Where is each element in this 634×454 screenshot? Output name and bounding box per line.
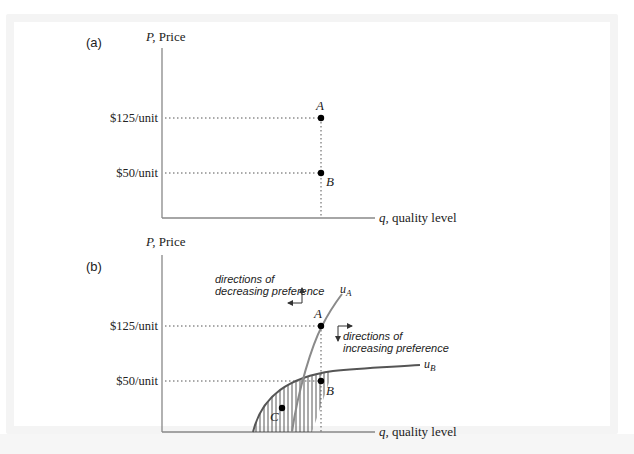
figure-canvas: (a) P, Price q, quality level $125/unit … [0, 0, 634, 454]
panel-a-label-B: B [326, 174, 334, 189]
panel-b-tick-50: $50/unit [116, 374, 158, 388]
panel-a-point-B [318, 170, 324, 176]
panel-a: (a) P, Price q, quality level $125/unit … [86, 29, 457, 225]
panel-b-x-axis-label: q, quality level [379, 424, 457, 439]
panel-a-point-A [318, 115, 324, 121]
curve-uA-label: uA [340, 282, 352, 298]
panel-b-point-C [279, 405, 285, 411]
panel-a-tick-50: $50/unit [116, 166, 158, 180]
panel-a-x-axis-label: q, quality level [379, 210, 457, 225]
panel-b-label-B: B [326, 383, 334, 398]
panel-b: (b) P, Price q, quality level $125/unit … [86, 234, 457, 439]
panel-b-point-B [318, 378, 324, 384]
panel-b-label-A: A [313, 306, 322, 321]
decreasing-preference-line1: directions of [215, 273, 275, 285]
panel-a-y-axis-label: P, Price [145, 29, 186, 44]
increasing-preference-line2: increasing preference [343, 342, 449, 354]
panel-b-point-A [318, 323, 324, 329]
increasing-preference-line1: directions of [343, 330, 403, 342]
panel-b-y-axis-label: P, Price [145, 234, 186, 249]
panel-a-tick-125: $125/unit [110, 111, 158, 125]
panel-b-tick-125: $125/unit [110, 319, 158, 333]
region-C-hatching [256, 360, 328, 432]
curve-uB-label: uB [424, 357, 436, 373]
panel-b-label-C: C [270, 409, 279, 424]
panel-a-label-A: A [315, 98, 324, 113]
panel-b-label: (b) [86, 259, 102, 274]
decreasing-preference-line2: decreasing preference [215, 285, 324, 297]
panel-a-label: (a) [86, 35, 102, 50]
